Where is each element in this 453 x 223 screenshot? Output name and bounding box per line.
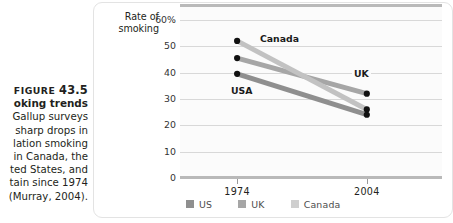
data-point-us-2004 [364,112,370,118]
y-tick-label-40: 40 [124,67,176,78]
data-point-uk-2004 [364,91,370,97]
x-tick-1974 [237,179,238,184]
legend-item-us[interactable]: US [186,199,212,210]
figure-number: 43.5 [59,83,88,97]
caption-line-4: in Canada, the [0,150,88,163]
figure-caption: FIGURE 43.5 oking trends Gallup surveys … [0,84,88,203]
legend-swatch-canada [291,200,299,208]
legend-label-uk: UK [251,199,264,210]
y-tick-label-50: 50 [124,40,176,51]
figure-title: oking trends [0,97,88,110]
y-tick-label-30: 30 [124,93,176,104]
x-axis-label-1974: 1974 [207,186,267,197]
series-line-us [237,74,367,115]
x-tick-2004 [367,179,368,184]
legend-item-uk[interactable]: UK [238,199,264,210]
legend-label-canada: Canada [304,199,341,210]
legend-swatch-us [186,200,194,208]
legend-swatch-uk [238,200,246,208]
caption-line-1: Gallup surveys [0,110,88,123]
series-label-canada: Canada [258,33,301,44]
data-point-us-1974 [234,71,240,77]
y-axis-tick-labels: 60%50403020100 [122,4,176,178]
chart-legend: US UK Canada [186,197,341,211]
caption-line-7: (Murray, 2004). [0,190,88,203]
series-label-usa: USA [229,85,254,96]
figure-label-word: FIGURE [14,85,56,96]
caption-line-5: ted States, and [0,163,88,176]
y-tick-label-20: 20 [124,119,176,130]
data-point-uk-1974 [234,55,240,61]
data-point-canada-2004 [364,106,370,112]
y-tick-label-60: 60% [124,14,176,25]
caption-line-6: tain since 1974 [0,176,88,189]
caption-line-2: sharp drops in [0,124,88,137]
series-label-uk: UK [352,68,371,79]
caption-line-3: lation smoking [0,137,88,150]
legend-label-us: US [199,199,212,210]
y-tick-label-0: 0 [124,172,176,183]
series-line-canada [237,41,367,110]
y-tick-label-10: 10 [124,146,176,157]
series-layer [180,4,442,178]
data-point-canada-1974 [234,38,240,44]
figure-number-line: FIGURE 43.5 [0,84,88,97]
legend-item-canada[interactable]: Canada [291,199,341,210]
x-axis-label-2004: 2004 [337,186,397,197]
